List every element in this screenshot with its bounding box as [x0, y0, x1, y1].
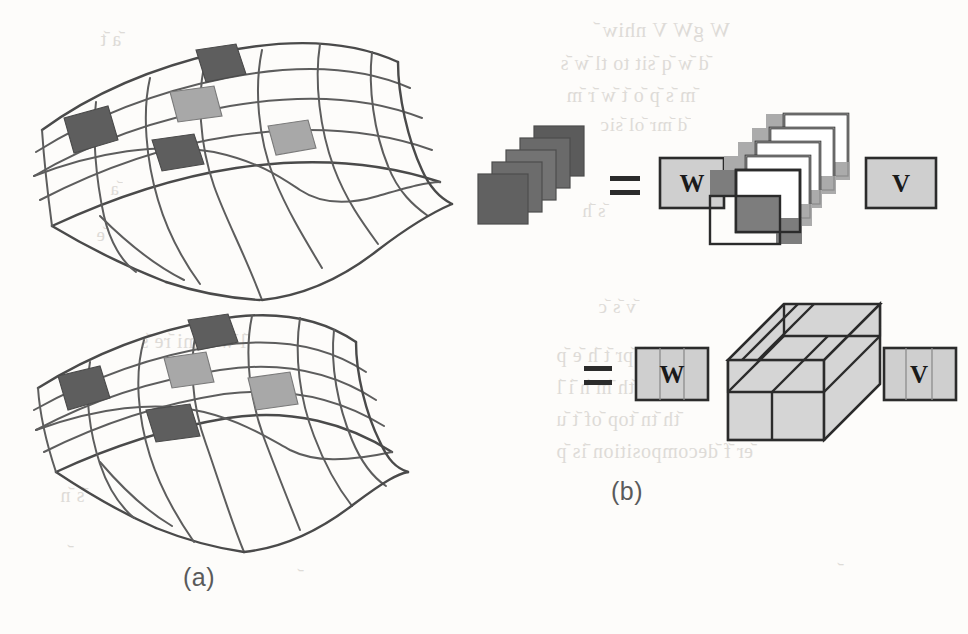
matrix-w: W [636, 348, 708, 400]
mesh-v-curve [248, 316, 300, 530]
patch-light-center [170, 86, 222, 122]
mesh-v-curve [333, 330, 386, 486]
bleed-line: ᷄d ᷄w ᷄q ᷄sit to tl ᷄w ᷄s [560, 52, 709, 75]
core-tensor-box [728, 304, 880, 440]
mesh-edge [156, 528, 244, 552]
matrix-v: V [884, 348, 956, 400]
mesh-v-curve [100, 216, 184, 280]
mesh-u-curve [56, 415, 392, 472]
patch-light-right [268, 120, 316, 155]
patch-dark-bottom [146, 404, 200, 442]
lower-mesh-surface [34, 314, 408, 552]
upper-mesh-surface [34, 43, 452, 300]
mesh-v-curve [100, 462, 172, 526]
patch-dark-left [64, 106, 118, 153]
matrix-v: V [866, 158, 936, 208]
matrix-v-letter: V [892, 170, 910, 197]
matrix-v-letter: V [910, 361, 928, 388]
mesh-v-curve [258, 50, 322, 268]
panel-a-graphic [0, 0, 500, 620]
dark-square-stack [478, 126, 584, 224]
mesh-edge [166, 282, 260, 300]
panel-a-label: (a) [183, 563, 215, 592]
equals-sign [584, 366, 612, 385]
patch-light-center [164, 352, 214, 388]
mesh-edge [244, 472, 408, 552]
matrix-w-letter: W [680, 170, 705, 197]
mesh-edge [356, 342, 408, 472]
tensor-equation: W [580, 292, 968, 482]
patch-dark-bottom [152, 134, 204, 171]
panel-b-label: (b) [611, 477, 643, 506]
bleed-line: ᷄ [840, 560, 841, 583]
patch-light-right [248, 372, 298, 410]
equals-sign [610, 176, 640, 195]
matrix-w-letter: W [660, 361, 685, 388]
bleed-line: W gW V nhiw ᷄ [596, 18, 730, 43]
figure-root: W gW V nhiw ᷄ ᷄d ᷄w ᷄q ᷄sit to tl ᷄w ᷄s … [0, 0, 968, 634]
core-frame-stack [710, 114, 850, 244]
mesh-edge [262, 204, 452, 300]
